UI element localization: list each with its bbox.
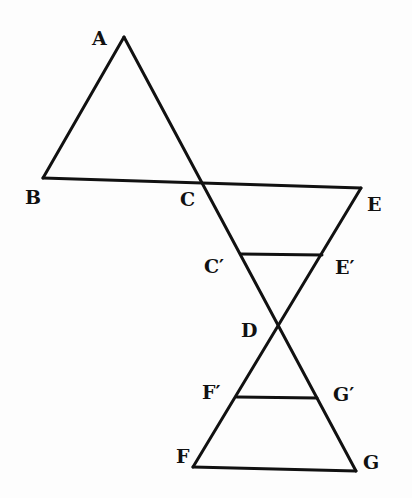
label-c-prime: C′ <box>204 255 224 277</box>
label-e-prime: E′ <box>335 256 355 278</box>
label-c: C <box>180 188 195 210</box>
label-d: D <box>241 319 257 341</box>
segment-ab <box>43 37 124 178</box>
label-e: E <box>367 193 381 215</box>
label-g-prime: G′ <box>333 383 354 405</box>
segment-fg <box>193 467 356 471</box>
segment-be <box>43 178 361 188</box>
label-f: F <box>176 445 190 467</box>
segment-c-prime-e-prime <box>241 254 322 255</box>
geometry-diagram: A B C E C′ E′ D F′ G′ F G <box>0 0 412 498</box>
label-g: G <box>363 451 379 473</box>
label-f-prime: F′ <box>202 381 221 403</box>
segment-ef <box>193 188 361 467</box>
label-a: A <box>91 27 107 49</box>
segment-f-prime-g-prime <box>237 397 317 398</box>
label-b: B <box>25 186 41 208</box>
